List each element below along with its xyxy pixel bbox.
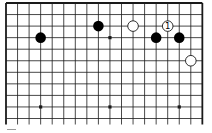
black-stone <box>151 32 162 43</box>
move-number-label: 1 <box>165 21 170 31</box>
star-point <box>39 105 42 108</box>
board-grid <box>6 3 202 125</box>
white-stone <box>128 21 139 32</box>
black-stone <box>174 32 185 43</box>
star-point <box>108 36 111 39</box>
white-stone <box>186 55 197 66</box>
black-stone <box>93 21 104 32</box>
go-board: 1 <box>0 0 212 133</box>
star-point <box>108 105 111 108</box>
black-stone <box>35 32 46 43</box>
stones: 1 <box>35 21 196 66</box>
caption-mark <box>7 129 16 130</box>
star-point <box>178 105 181 108</box>
